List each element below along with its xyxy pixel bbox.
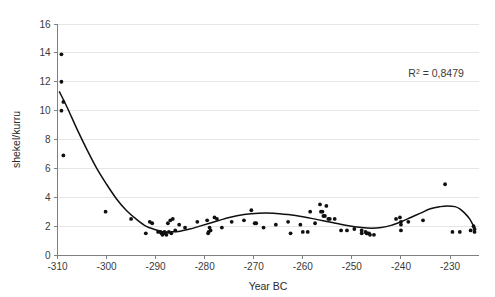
x-axis-title: Year BC: [249, 280, 288, 292]
data-point: [328, 217, 332, 221]
data-point: [144, 231, 148, 235]
data-point: [399, 229, 403, 233]
data-point: [368, 233, 372, 237]
y-tick-label: 4: [45, 192, 51, 203]
x-tick-label: -280: [195, 261, 215, 272]
data-point: [274, 223, 278, 227]
y-tick-label: 6: [45, 163, 51, 174]
data-point: [289, 231, 293, 235]
data-point: [306, 230, 310, 234]
y-tick-label: 0: [45, 250, 51, 261]
data-point: [60, 80, 64, 84]
data-point: [215, 217, 219, 221]
data-point: [339, 229, 343, 233]
data-point: [61, 153, 65, 157]
data-point: [308, 210, 312, 214]
data-point: [220, 226, 224, 230]
data-point: [60, 52, 64, 56]
data-point: [173, 229, 177, 233]
data-point: [150, 221, 154, 225]
data-point: [171, 217, 175, 221]
data-point: [169, 231, 173, 235]
data-point: [421, 218, 425, 222]
r-squared-value: = 0,8479: [420, 67, 464, 79]
data-point: [333, 217, 337, 221]
x-tick-label: -260: [293, 261, 313, 272]
data-points-group: [60, 52, 477, 236]
data-point: [324, 204, 328, 208]
data-point: [451, 230, 455, 234]
data-point: [249, 208, 253, 212]
y-tick-label: 10: [39, 105, 51, 116]
data-point: [345, 229, 349, 233]
data-point: [394, 217, 398, 221]
data-point: [360, 231, 364, 235]
data-point: [242, 218, 246, 222]
data-point: [60, 109, 64, 113]
y-axis-title: shekel/kurru: [10, 111, 22, 168]
data-point: [469, 229, 473, 233]
data-point: [318, 203, 322, 207]
x-tick-label: -300: [97, 261, 117, 272]
data-point: [313, 221, 317, 225]
data-point: [321, 210, 325, 214]
y-tick-label: 16: [39, 19, 51, 30]
data-point: [205, 218, 209, 222]
data-point: [166, 221, 170, 225]
data-point: [458, 230, 462, 234]
r-squared-annotation: R2 = 0,8479: [408, 67, 464, 79]
y-tick-label: 8: [45, 134, 51, 145]
data-point: [104, 210, 108, 214]
y-tick-label: 2: [45, 221, 51, 232]
data-point: [254, 221, 258, 225]
data-point: [473, 230, 477, 234]
data-point: [230, 220, 234, 224]
y-tick-label: 14: [39, 47, 51, 58]
data-point: [301, 230, 305, 234]
data-point: [372, 233, 376, 237]
y-tick-label: 12: [39, 76, 51, 87]
data-point: [298, 223, 302, 227]
data-point: [165, 233, 169, 237]
data-point: [177, 223, 181, 227]
x-tick-label: -310: [47, 261, 67, 272]
chart-container: 0246810121416 -310-300-290-280-270-260-2…: [0, 0, 495, 297]
data-point: [61, 100, 65, 104]
x-tick-label: -270: [244, 261, 264, 272]
data-point: [195, 220, 199, 224]
x-tick-label: -240: [391, 261, 411, 272]
data-point: [323, 214, 327, 218]
x-tick-label: -250: [342, 261, 362, 272]
data-point: [399, 223, 403, 227]
data-point: [129, 217, 133, 221]
data-point: [183, 226, 187, 230]
x-axis-ticks-group: -310-300-290-280-270-260-250-240-230: [47, 255, 460, 272]
data-point: [209, 229, 213, 233]
gridlines-group: [58, 24, 479, 226]
data-point: [398, 216, 402, 220]
scatter-chart: 0246810121416 -310-300-290-280-270-260-2…: [0, 0, 495, 297]
data-point: [286, 220, 290, 224]
x-tick-label: -230: [440, 261, 460, 272]
data-point: [406, 220, 410, 224]
data-point: [262, 226, 266, 230]
data-point: [352, 227, 356, 231]
trendline-curve: [59, 92, 475, 232]
y-axis-ticks-group: 0246810121416: [39, 19, 57, 261]
x-tick-label: -290: [146, 261, 166, 272]
data-point: [443, 182, 447, 186]
